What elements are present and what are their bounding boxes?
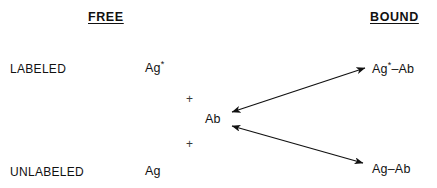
arrow-layer <box>0 0 437 188</box>
column-header-free: FREE <box>88 11 124 24</box>
bound-labeled-complex-base: Ag <box>372 62 388 76</box>
arrow-unlabeled-equilibrium <box>232 126 363 163</box>
species-antibody: Ab <box>205 113 221 126</box>
row-label-unlabeled: UNLABELED <box>10 166 84 178</box>
plus-operator-top: + <box>186 93 193 105</box>
arrow-labeled-equilibrium <box>232 68 365 112</box>
species-bound-unlabeled-complex: Ag–Ab <box>372 163 411 176</box>
species-unlabeled-antigen: Ag <box>145 165 161 178</box>
species-labeled-antigen: Ag* <box>145 62 164 75</box>
plus-operator-bottom: + <box>186 138 193 150</box>
column-header-bound: BOUND <box>370 11 419 24</box>
radiolabel-asterisk: * <box>161 59 165 69</box>
binding-assay-diagram: FREE BOUND LABELED UNLABELED Ag* Ag + + … <box>0 0 437 188</box>
species-bound-labeled-complex: Ag*–Ab <box>372 63 414 76</box>
species-labeled-antigen-base: Ag <box>145 61 161 75</box>
bound-labeled-complex-suffix: –Ab <box>391 62 414 76</box>
row-label-labeled: LABELED <box>10 63 66 75</box>
